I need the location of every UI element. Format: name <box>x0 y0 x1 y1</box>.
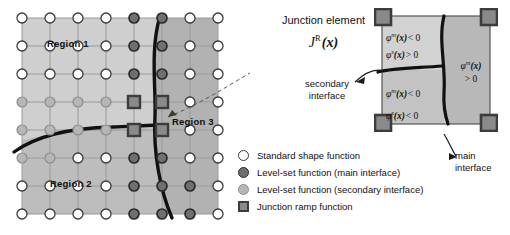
phi-argument: (x) <box>394 50 405 60</box>
phi-relation: < 0 <box>408 89 420 99</box>
levelset-main-node-icon <box>238 167 249 178</box>
node-standard <box>101 69 111 79</box>
phi-right-labels: φm(x) > 0 <box>448 56 494 86</box>
figure-canvas: Region 1 Region 2 Region 3 Junction elem… <box>0 0 510 235</box>
node-levelset-secondary <box>73 125 83 135</box>
node-levelset-main <box>129 69 139 79</box>
node-junction-ramp <box>156 124 168 136</box>
node-standard <box>213 125 223 135</box>
node-standard <box>45 209 55 219</box>
phi-upper-left-labels: φm(x) < 0 φs(x) > 0 <box>386 28 420 62</box>
node-levelset-secondary <box>73 97 83 107</box>
phi-right-line-2: > 0 <box>448 73 494 86</box>
node-standard <box>213 153 223 163</box>
node-standard <box>73 153 83 163</box>
secondary-interface-label: secondary interface <box>292 78 362 102</box>
legend-label: Level-set function (secondary interface) <box>257 184 423 195</box>
node-levelset-main <box>129 41 139 51</box>
node-levelset-secondary <box>101 97 111 107</box>
node-standard <box>17 209 27 219</box>
secondary-interface-line-2: interface <box>309 90 345 101</box>
legend: Standard shape function Level-set functi… <box>236 147 506 215</box>
legend-item-levelset-main: Level-set function (main interface) <box>236 164 506 181</box>
phi-lower-left-line-1: φm(x) < 0 <box>386 84 420 101</box>
node-standard <box>185 41 195 51</box>
junction-element-symbol: JR (x) <box>256 33 391 51</box>
node-levelset-secondary <box>45 125 55 135</box>
junction-element-title: Junction element <box>256 14 391 26</box>
node-standard <box>213 97 223 107</box>
node-standard <box>101 153 111 163</box>
levelset-secondary-node-icon <box>238 184 249 195</box>
node-levelset-secondary <box>17 125 27 135</box>
node-junction-ramp <box>156 96 168 108</box>
node-junction-ramp <box>481 9 497 25</box>
node-levelset-main <box>157 153 167 163</box>
node-levelset-main <box>157 209 167 219</box>
node-standard <box>101 181 111 191</box>
phi-upper-left-line-2: φs(x) > 0 <box>386 45 420 62</box>
node-levelset-main <box>129 13 139 23</box>
phi-relation: < 0 <box>408 33 420 43</box>
phi-relation: > 0 <box>406 50 418 60</box>
phi-argument: (x) <box>396 33 407 43</box>
node-standard <box>213 41 223 51</box>
node-standard <box>45 13 55 23</box>
legend-item-junction-ramp: Junction ramp function <box>236 198 506 215</box>
secondary-interface-line-1: secondary <box>305 78 349 89</box>
phi-argument: (x) <box>394 111 405 121</box>
node-standard <box>213 181 223 191</box>
phi-relation: < 0 <box>406 111 418 121</box>
phi-right-line-1: φm(x) <box>448 56 494 73</box>
node-standard <box>17 13 27 23</box>
node-standard <box>185 13 195 23</box>
node-levelset-secondary <box>17 153 27 163</box>
node-standard <box>17 69 27 79</box>
phi-lower-left-labels: φm(x) < 0 φs(x) < 0 <box>386 84 420 123</box>
region2-fill <box>22 127 160 214</box>
phi-argument: (x) <box>396 89 407 99</box>
node-standard <box>185 153 195 163</box>
node-levelset-main <box>157 41 167 51</box>
node-levelset-main <box>129 209 139 219</box>
node-standard <box>17 41 27 51</box>
junction-symbol-argument: (x) <box>322 35 338 50</box>
phi-argument: (x) <box>470 61 481 71</box>
node-levelset-secondary <box>101 125 111 135</box>
node-standard <box>73 13 83 23</box>
node-standard <box>185 97 195 107</box>
node-junction-ramp <box>128 96 140 108</box>
node-standard <box>213 13 223 23</box>
node-standard <box>73 209 83 219</box>
node-junction-ramp <box>128 124 140 136</box>
node-standard <box>213 209 223 219</box>
node-levelset-main <box>185 181 195 191</box>
junction-ramp-node-icon <box>238 201 249 212</box>
node-levelset-main <box>129 181 139 191</box>
phi-lower-left-line-2: φs(x) < 0 <box>386 106 420 123</box>
legend-label: Level-set function (main interface) <box>257 167 400 178</box>
node-standard <box>101 41 111 51</box>
standard-shape-node-icon <box>238 150 249 161</box>
region1-fill <box>22 18 160 140</box>
node-levelset-secondary <box>17 97 27 107</box>
node-levelset-secondary <box>45 153 55 163</box>
node-standard <box>17 181 27 191</box>
node-junction-ramp <box>481 115 497 131</box>
region-2-label: Region 2 <box>50 178 92 189</box>
node-levelset-main <box>157 69 167 79</box>
node-levelset-main <box>129 153 139 163</box>
node-levelset-main <box>185 209 195 219</box>
region-3-label: Region 3 <box>172 116 214 127</box>
grid-panel: Region 1 Region 2 Region 3 <box>0 0 250 235</box>
legend-label: Standard shape function <box>257 150 360 161</box>
node-junction-ramp <box>375 9 391 25</box>
node-levelset-main <box>157 181 167 191</box>
node-standard <box>185 69 195 79</box>
phi-upper-left-line-1: φm(x) < 0 <box>386 28 420 45</box>
legend-label: Junction ramp function <box>257 201 353 212</box>
node-standard <box>213 69 223 79</box>
node-standard <box>45 69 55 79</box>
node-standard <box>101 13 111 23</box>
node-standard <box>101 209 111 219</box>
